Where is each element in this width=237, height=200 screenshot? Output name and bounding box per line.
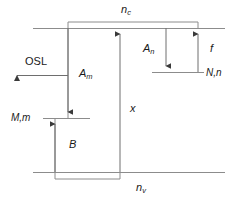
- conduction-band-label-sub: c: [127, 8, 131, 17]
- band-diagram-canvas: [0, 0, 237, 200]
- energy-band-diagram: nc nv N,n M,m OSL Am An f x B: [0, 0, 237, 200]
- valence-band-label-sub: v: [142, 186, 146, 195]
- osl-label: OSL: [25, 56, 47, 67]
- x-label: x: [130, 103, 136, 114]
- conduction-band-label: nc: [121, 4, 131, 15]
- an-label-sub: n: [150, 47, 154, 56]
- trap-level-label: N,n: [206, 68, 222, 78]
- am-label-sub: m: [86, 72, 92, 81]
- b-label: B: [69, 139, 76, 150]
- f-label: f: [210, 43, 213, 54]
- an-label: An: [143, 43, 155, 54]
- bottom-connector-rail: [55, 118, 120, 179]
- valence-band-label: nv: [136, 182, 146, 193]
- centre-level-label: M,m: [11, 113, 30, 123]
- am-label: Am: [79, 68, 93, 79]
